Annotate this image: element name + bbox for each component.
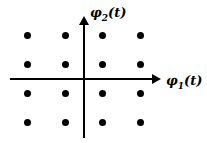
constellation-point: [99, 90, 106, 97]
constellation-point: [24, 90, 31, 97]
constellation-point: [24, 32, 31, 39]
y-axis-arrow-icon: [79, 16, 89, 25]
constellation-point: [24, 61, 31, 68]
constellation-point: [99, 32, 106, 39]
y-axis-label: φ2(t): [90, 6, 126, 23]
constellation-point: [137, 90, 144, 97]
constellation-point: [99, 119, 106, 126]
constellation-point: [24, 119, 31, 126]
constellation-point: [137, 61, 144, 68]
constellation-point: [137, 32, 144, 39]
constellation-point: [62, 90, 69, 97]
constellation-point: [62, 32, 69, 39]
constellation-point: [62, 119, 69, 126]
x-axis-arrow-icon: [152, 74, 161, 84]
y-axis-line: [83, 22, 85, 138]
constellation-point: [62, 61, 69, 68]
constellation-point: [137, 119, 144, 126]
x-axis-label: φ1(t): [166, 74, 202, 91]
constellation-diagram: φ2(t) φ1(t): [0, 0, 207, 143]
constellation-point: [99, 61, 106, 68]
x-axis-line: [10, 78, 154, 80]
